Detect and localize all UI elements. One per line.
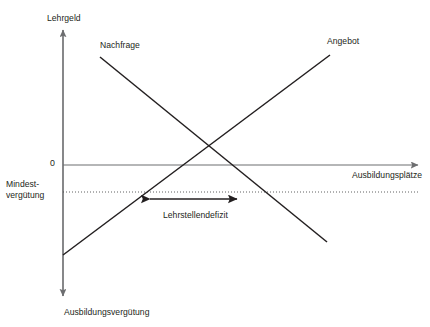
supply-curve (63, 55, 330, 255)
demand-curve-label: Nachfrage (100, 40, 140, 51)
x-axis-label: Ausbildungsplätze (352, 170, 422, 181)
min-wage-label: Mindest-vergütung (6, 179, 44, 200)
y-axis-bottom-label: Ausbildungsvergütung (64, 307, 149, 318)
y-axis-top-label: Lehrgeld (47, 13, 81, 24)
min-wage-label-line1: Mindest- (6, 179, 39, 189)
deficit-label: Lehrstellendefizit (163, 210, 228, 221)
diagram-svg (0, 0, 430, 327)
min-wage-label-line2: vergütung (6, 190, 44, 200)
supply-curve-label: Angebot (327, 36, 359, 47)
origin-label: 0 (50, 158, 55, 169)
diagram-canvas: Lehrgeld 0 Ausbildungsplätze Ausbildungs… (0, 0, 430, 327)
